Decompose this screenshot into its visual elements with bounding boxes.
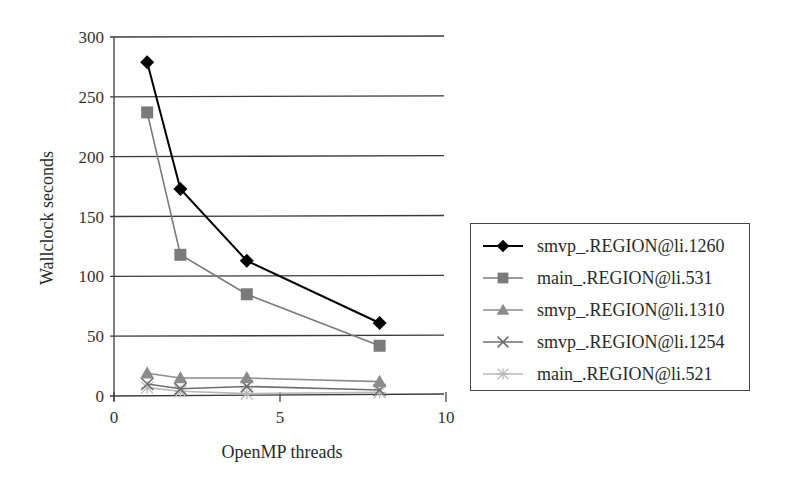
- gridlines: [110, 36, 444, 336]
- legend-item-smvp-1260: smvp_.REGION@li.1260: [483, 230, 749, 262]
- triangle-marker-icon: [483, 300, 523, 320]
- diamond-marker-icon: [483, 236, 523, 256]
- y-tick-label: 300: [79, 28, 105, 47]
- data-series: [140, 55, 386, 399]
- y-axis-title: Wallclock seconds: [37, 151, 57, 285]
- x-marker-icon: [483, 332, 523, 352]
- legend-label: smvp_.REGION@li.1310: [537, 300, 725, 321]
- legend-item-main-531: main_.REGION@li.531: [483, 262, 749, 294]
- legend-label: smvp_.REGION@li.1254: [537, 332, 725, 353]
- y-tick-label: 100: [79, 267, 105, 286]
- series-triangle: [140, 366, 386, 387]
- x-axis-title: OpenMP threads: [222, 442, 343, 462]
- asterisk-marker-icon: [483, 364, 523, 384]
- y-tick-label: 250: [79, 88, 105, 107]
- y-tick-label: 150: [79, 208, 105, 227]
- y-tick-label: 0: [96, 387, 105, 406]
- axes: [110, 37, 446, 402]
- square-marker-icon: [483, 268, 523, 288]
- legend: smvp_.REGION@li.1260 main_.REGION@li.531…: [470, 223, 750, 391]
- y-tick-labels: 050100150200250300: [79, 28, 105, 406]
- legend-item-smvp-1254: smvp_.REGION@li.1254: [483, 326, 749, 358]
- series-square: [141, 106, 385, 351]
- legend-item-smvp-1310: smvp_.REGION@li.1310: [483, 294, 749, 326]
- y-tick-label: 50: [87, 327, 104, 346]
- legend-item-main-521: main_.REGION@li.521: [483, 358, 749, 390]
- x-tick-label: 10: [438, 408, 455, 427]
- x-tick-labels: 0510: [110, 408, 455, 427]
- y-tick-label: 200: [79, 148, 105, 167]
- legend-label: main_.REGION@li.521: [537, 364, 713, 385]
- x-tick-label: 0: [110, 408, 119, 427]
- legend-label: main_.REGION@li.531: [537, 268, 713, 289]
- x-tick-label: 5: [276, 408, 285, 427]
- legend-label: smvp_.REGION@li.1260: [537, 236, 725, 257]
